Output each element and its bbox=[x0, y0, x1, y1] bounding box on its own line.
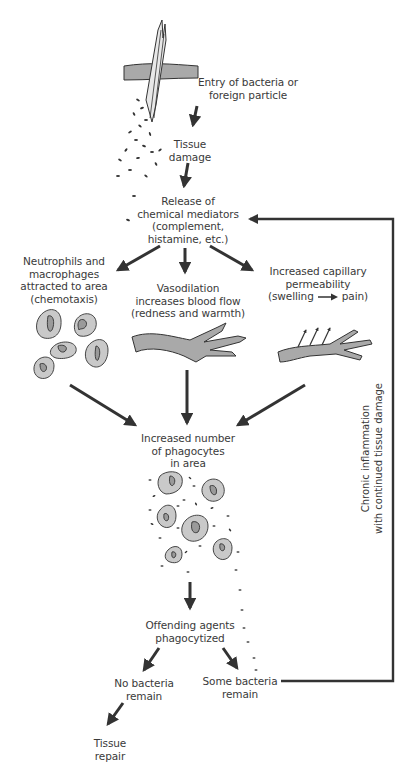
node-phagocytized-line-1: Offending agents bbox=[138, 619, 242, 632]
effect-pain: pain) bbox=[342, 290, 368, 302]
node-phagocytized: Offending agents phagocytized bbox=[138, 619, 242, 644]
node-phagocytized-line-2: phagocytized bbox=[138, 632, 242, 645]
node-tissue-repair-line-2: repair bbox=[86, 750, 134, 763]
node-entry-line-2: foreign particle bbox=[188, 89, 308, 102]
node-vasodilation: Vasodilation increases blood flow (redne… bbox=[126, 282, 250, 320]
node-permeability-line-3: (swellingpain) bbox=[262, 290, 374, 303]
node-chemotaxis-line-4: (chemotaxis) bbox=[8, 293, 120, 306]
leaky-capillary-icon bbox=[278, 328, 372, 362]
node-permeability-line-2: permeability bbox=[262, 278, 374, 291]
node-vasodilation-line-3: (redness and warmth) bbox=[126, 307, 250, 320]
node-no-bacteria: No bacteria remain bbox=[104, 677, 184, 702]
node-chemotaxis-line-3: attracted to area bbox=[8, 280, 120, 293]
node-tissue-damage-line-2: damage bbox=[160, 151, 220, 164]
node-tissue-damage-line-1: Tissue bbox=[160, 138, 220, 151]
node-mediators-line-3: (complement, bbox=[128, 220, 248, 233]
right-arrow-icon bbox=[317, 293, 339, 301]
node-phagocytes-line-3: in area bbox=[138, 457, 238, 470]
diagram-graphics bbox=[0, 0, 417, 766]
node-mediators-line-4: histamine, etc.) bbox=[128, 233, 248, 246]
node-chemotaxis: Neutrophils and macrophages attracted to… bbox=[8, 255, 120, 305]
node-mediators: Release of chemical mediators (complemen… bbox=[128, 195, 248, 245]
node-entry-line-1: Entry of bacteria or bbox=[188, 76, 308, 89]
splinter-in-skin-icon bbox=[124, 20, 198, 122]
phagocyte-cells-icon bbox=[34, 310, 108, 379]
node-some-bacteria: Some bacteria remain bbox=[200, 675, 280, 700]
node-permeability-line-1: Increased capillary bbox=[262, 265, 374, 278]
node-tissue-repair-line-1: Tissue bbox=[86, 737, 134, 750]
node-phagocytes-line-2: of phagocytes bbox=[138, 445, 238, 458]
dilated-vessel-icon bbox=[132, 323, 246, 362]
node-tissue-repair: Tissue repair bbox=[86, 737, 134, 762]
feedback-loop-label: Chronic inflammation with continued tiss… bbox=[360, 344, 385, 574]
node-chemotaxis-line-1: Neutrophils and bbox=[8, 255, 120, 268]
node-some-bacteria-line-1: Some bacteria bbox=[200, 675, 280, 688]
feedback-loop-line-1: Chronic inflammation bbox=[360, 344, 373, 574]
node-entry: Entry of bacteria or foreign particle bbox=[188, 76, 308, 101]
node-permeability: Increased capillary permeability (swelli… bbox=[262, 265, 374, 303]
node-vasodilation-line-1: Vasodilation bbox=[126, 282, 250, 295]
node-tissue-damage: Tissue damage bbox=[160, 138, 220, 163]
node-chemotaxis-line-2: macrophages bbox=[8, 268, 120, 281]
effect-swelling: (swelling bbox=[268, 290, 314, 302]
node-phagocytes-line-1: Increased number bbox=[138, 432, 238, 445]
node-mediators-line-2: chemical mediators bbox=[128, 208, 248, 221]
inflammation-flowchart: Entry of bacteria or foreign particle Ti… bbox=[0, 0, 417, 766]
node-some-bacteria-line-2: remain bbox=[200, 688, 280, 701]
node-phagocytes: Increased number of phagocytes in area bbox=[138, 432, 238, 470]
node-no-bacteria-line-1: No bacteria bbox=[104, 677, 184, 690]
feedback-loop-line-2: with continued tissue damage bbox=[372, 344, 385, 574]
node-no-bacteria-line-2: remain bbox=[104, 690, 184, 703]
node-mediators-line-1: Release of bbox=[128, 195, 248, 208]
node-vasodilation-line-2: increases blood flow bbox=[126, 295, 250, 308]
